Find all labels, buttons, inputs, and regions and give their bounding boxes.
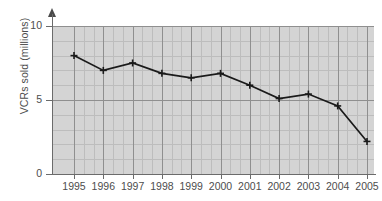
- x-tick-1996: [103, 174, 104, 179]
- x-tick-1997: [133, 174, 134, 179]
- data-point-1999: [188, 74, 195, 81]
- x-tick-2000: [221, 174, 222, 179]
- x-tick-1999: [191, 174, 192, 179]
- x-tick-1998: [162, 174, 163, 179]
- x-tick-2001: [250, 174, 251, 179]
- y-tick-0: [46, 174, 52, 175]
- data-point-2003: [305, 91, 312, 98]
- x-axis-line: [52, 174, 376, 175]
- data-point-2000: [217, 70, 224, 77]
- data-series-vcrs-sold: [52, 26, 374, 174]
- data-point-1996: [100, 67, 107, 74]
- y-tick-label-0: 0: [0, 167, 42, 179]
- data-point-1998: [158, 70, 165, 77]
- x-tick-2002: [279, 174, 280, 179]
- data-point-1997: [129, 60, 136, 67]
- data-point-1995: [71, 52, 78, 59]
- x-tick-1995: [74, 174, 75, 179]
- x-tick-label-2005: 2005: [347, 180, 382, 192]
- chart-container: VCRs sold (millions) 0510 19951996199719…: [0, 0, 382, 201]
- data-point-2001: [246, 82, 253, 89]
- x-tick-2004: [338, 174, 339, 179]
- y-tick-label-10: 10: [0, 19, 42, 31]
- x-tick-2005: [367, 174, 368, 179]
- x-tick-2003: [308, 174, 309, 179]
- data-line: [74, 56, 367, 142]
- data-point-2002: [276, 95, 283, 102]
- y-tick-label-5: 5: [0, 93, 42, 105]
